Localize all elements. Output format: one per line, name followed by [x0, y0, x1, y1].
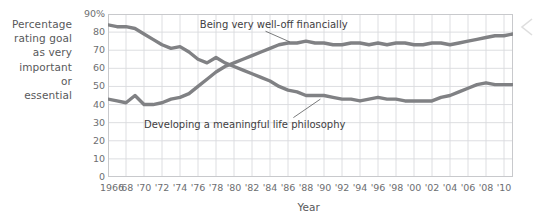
x-axis-tick-label: '94 [353, 183, 368, 193]
x-axis-tick-label: '84 [263, 183, 278, 193]
x-axis-tick-label: '00 [407, 183, 422, 193]
x-axis-title: Year [298, 201, 320, 213]
x-axis-tick-label: '90 [317, 183, 332, 193]
x-axis-tick-label: '98 [389, 183, 404, 193]
x-axis-tick-label: '72 [155, 183, 170, 193]
x-axis-tick-label: '08 [479, 183, 494, 193]
x-axis-tick-label: '80 [227, 183, 242, 193]
series-label-well-off: Being very well-off financially [200, 19, 348, 30]
x-axis-tick-labels: 1966'68'70'72'74'76'78'80'82'84'86'88'90… [0, 0, 540, 221]
x-axis-tick-label: '02 [425, 183, 440, 193]
x-axis-tick-label: '96 [371, 183, 386, 193]
x-axis-tick-label: '76 [191, 183, 206, 193]
x-axis-tick-label: '74 [173, 183, 188, 193]
chart-figure: Percentage rating goal as very important… [0, 0, 540, 221]
x-axis-tick-label: '06 [461, 183, 476, 193]
x-axis-tick-label: '82 [245, 183, 260, 193]
x-axis-tick-label: '86 [281, 183, 296, 193]
chevron-left-icon[interactable] [516, 14, 538, 40]
x-axis-tick-label: '68 [119, 183, 134, 193]
x-axis-tick-label: '78 [209, 183, 224, 193]
x-axis-tick-label: '92 [335, 183, 350, 193]
x-axis-tick-label: '04 [443, 183, 458, 193]
x-axis-tick-label: '88 [299, 183, 314, 193]
series-label-philosophy: Developing a meaningful life philosophy [144, 119, 345, 130]
x-axis-tick-label: '70 [137, 183, 152, 193]
x-axis-tick-label: '10 [497, 183, 512, 193]
